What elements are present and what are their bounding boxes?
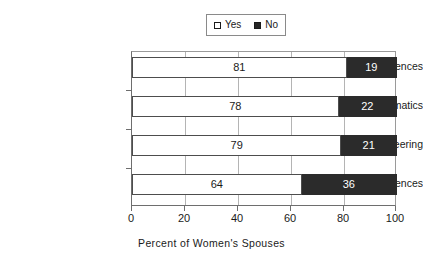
x-axis-tick: [290, 206, 291, 211]
bar-value-label: 64: [211, 179, 223, 190]
bar-segment-no: 19: [347, 57, 397, 78]
bar-segment-no: 22: [339, 96, 397, 117]
x-axis-tick: [131, 206, 132, 211]
stacked-bar-chart: Yes No Physical Sciences Mathematics Eng…: [0, 0, 423, 265]
bar-value-label: 22: [361, 101, 373, 112]
bar-segment-yes: 79: [132, 135, 341, 156]
legend-label-yes: Yes: [225, 20, 241, 30]
x-axis-title: Percent of Women's Spouses: [0, 237, 423, 249]
x-axis-tick-label: 20: [164, 213, 204, 224]
bar-segment-yes: 64: [132, 174, 302, 195]
filled-square-swatch-icon: [254, 22, 261, 29]
x-axis-tick-label: 60: [270, 213, 310, 224]
x-axis-tick: [184, 206, 185, 211]
bar-value-label: 79: [231, 140, 243, 151]
bar-row: 81 19: [132, 57, 395, 78]
bar-value-label: 78: [229, 101, 241, 112]
x-axis-tick-label: 100: [375, 213, 415, 224]
x-axis-tick: [395, 206, 396, 211]
x-axis-tick-label: 40: [217, 213, 257, 224]
open-square-swatch-icon: [214, 22, 221, 29]
bar-segment-yes: 78: [132, 96, 339, 117]
chart-legend: Yes No: [206, 14, 286, 36]
legend-label-no: No: [265, 20, 278, 30]
x-axis-tick: [237, 206, 238, 211]
bar-segment-no: 36: [302, 174, 397, 195]
bar-value-label: 81: [233, 62, 245, 73]
legend-entry-no: No: [254, 20, 278, 30]
bar-row: 64 36: [132, 174, 395, 195]
bar-row: 79 21: [132, 135, 395, 156]
bar-row: 78 22: [132, 96, 395, 117]
x-axis-tick-label: 80: [323, 213, 363, 224]
plot-area: 81 19 78 22 79 21 64: [131, 51, 396, 206]
bar-value-label: 36: [343, 179, 355, 190]
x-axis-tick-label: 0: [111, 213, 151, 224]
bar-value-label: 21: [363, 140, 375, 151]
bar-value-label: 19: [365, 62, 377, 73]
x-axis-tick: [343, 206, 344, 211]
legend-entry-yes: Yes: [214, 20, 241, 30]
bar-segment-yes: 81: [132, 57, 347, 78]
bar-segment-no: 21: [341, 135, 397, 156]
